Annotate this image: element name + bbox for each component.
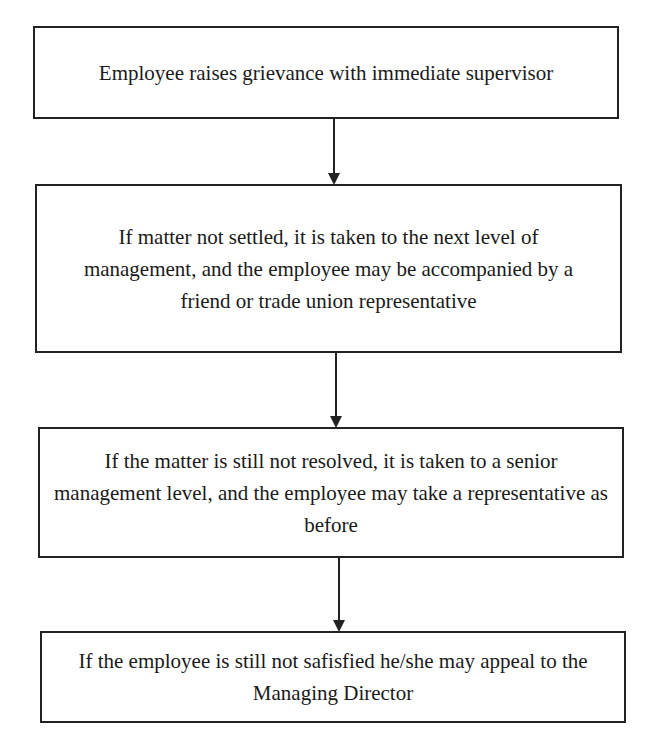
arrow-1-to-2 bbox=[333, 119, 335, 183]
arrow-2-to-3 bbox=[335, 353, 337, 426]
step-1-box: Employee raises grievance with immediate… bbox=[33, 26, 619, 119]
step-4-box: If the employee is still not safisfied h… bbox=[40, 631, 626, 723]
step-2-text: If matter not settled, it is taken to th… bbox=[64, 221, 594, 317]
step-2-box: If matter not settled, it is taken to th… bbox=[35, 184, 622, 353]
step-1-text: Employee raises grievance with immediate… bbox=[99, 57, 553, 89]
step-4-text: If the employee is still not safisfied h… bbox=[56, 645, 610, 709]
arrow-3-to-4 bbox=[338, 558, 340, 630]
step-3-text: If the matter is still not resolved, it … bbox=[54, 445, 608, 541]
step-3-box: If the matter is still not resolved, it … bbox=[38, 427, 624, 558]
